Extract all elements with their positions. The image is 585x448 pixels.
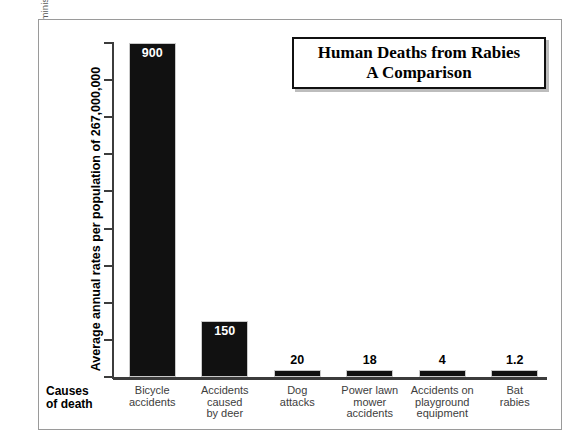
category-label: Accidents onplaygroundequipment: [406, 385, 478, 420]
y-axis-line: [112, 42, 114, 379]
bar-value-label: 4: [412, 354, 472, 367]
category-label-line: Bat: [479, 385, 551, 397]
category-label: Dogattacks: [261, 385, 333, 408]
bar: [346, 370, 393, 377]
category-label: Bicycleaccidents: [116, 385, 188, 408]
y-tick-900: [104, 42, 113, 44]
bar-value-label: 18: [340, 354, 400, 367]
category-label-line: accidents: [334, 408, 406, 420]
category-label: Accidentscausedby deer: [189, 385, 261, 420]
chart-title-line2: A Comparison: [366, 63, 471, 83]
y-tick-500: [104, 190, 113, 192]
category-label-line: Dog: [261, 385, 333, 397]
category-label-line: rabies: [479, 397, 551, 409]
y-tick-400: [104, 228, 113, 230]
chart-title-box: Human Deaths from Rabies A Comparison: [292, 37, 546, 89]
chart-title-line1: Human Deaths from Rabies: [318, 43, 520, 63]
y-tick-600: [104, 153, 113, 155]
y-tick-0: [104, 376, 113, 378]
category-label-line: Bicycle: [116, 385, 188, 397]
y-tick-100: [104, 339, 113, 341]
y-tick-200: [104, 302, 113, 304]
bar: [419, 370, 466, 377]
bar: [129, 43, 176, 377]
y-tick-700: [104, 116, 113, 118]
category-label-line: Accidents on: [406, 385, 478, 397]
bar-value-label: 1.2: [485, 354, 545, 367]
category-label: Power lawnmoweraccidents: [334, 385, 406, 420]
category-label: Batrabies: [479, 385, 551, 408]
y-axis-title: Average annual rates per population of 2…: [89, 59, 103, 379]
y-tick-300: [104, 265, 113, 267]
x-axis-baseline: [113, 377, 547, 380]
bar: [274, 370, 321, 377]
bar-value-label: 20: [267, 354, 327, 367]
category-label-line: Power lawn: [334, 385, 406, 397]
category-label-line: attacks: [261, 397, 333, 409]
category-label-line: Accidents: [189, 385, 261, 397]
category-label-line: equipment: [406, 408, 478, 420]
y-tick-800: [104, 79, 113, 81]
category-label-line: by deer: [189, 408, 261, 420]
bar-value-label: 150: [195, 325, 255, 338]
bar: [491, 370, 538, 377]
category-label-line: accidents: [116, 397, 188, 409]
x-axis-title-line2: of death: [46, 398, 114, 411]
x-axis-title: Causes of death: [46, 385, 114, 411]
bar-value-label: 900: [122, 47, 182, 60]
